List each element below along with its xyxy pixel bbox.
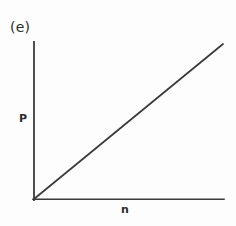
panel-label: (e) [10,20,30,34]
figure-panel: (e) P n [0,0,236,226]
x-axis-label: n [121,204,129,215]
y-axis-label: P [19,113,27,124]
plot-area [0,0,236,226]
data-series-line [34,44,223,199]
